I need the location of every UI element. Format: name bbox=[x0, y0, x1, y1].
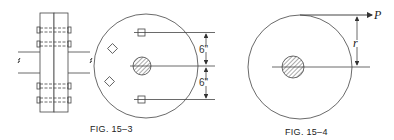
coupling-face-view bbox=[94, 14, 215, 118]
left-shaft bbox=[18, 52, 40, 73]
pulley-figure bbox=[248, 15, 372, 119]
right-break-mark bbox=[90, 58, 92, 63]
radius-label: r bbox=[353, 36, 358, 50]
figure-caption-15-4: FIG. 15–4 bbox=[285, 127, 328, 137]
diagram-canvas: 6" 6" P r bbox=[0, 0, 394, 140]
force-label: P bbox=[373, 8, 382, 22]
right-shaft bbox=[68, 52, 90, 73]
bolt-lower-left bbox=[105, 77, 115, 87]
dim-label-upper: 6" bbox=[199, 44, 209, 55]
coupling-side-view bbox=[18, 13, 92, 112]
dim-label-lower: 6" bbox=[199, 77, 209, 88]
bolt-upper-left bbox=[108, 44, 118, 54]
figure-caption-15-3: FIG. 15–3 bbox=[90, 124, 133, 134]
left-break-mark bbox=[18, 58, 20, 63]
